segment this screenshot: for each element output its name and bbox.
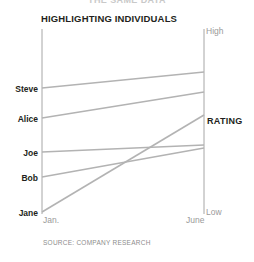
series-lines [42, 72, 204, 212]
scale-label-low: Low [206, 208, 222, 217]
slopegraph-chart: THE SAME DATA HIGHLIGHTING INDIVIDUALS S… [0, 0, 254, 262]
category-label-alice: Alice [18, 115, 38, 124]
series-line-alice [42, 92, 204, 118]
series-line-bob [42, 148, 204, 177]
plot-area [0, 0, 254, 262]
scale-label-high: High [206, 27, 223, 36]
category-label-joe: Joe [23, 149, 38, 158]
category-label-jane: Jane [19, 209, 38, 218]
category-label-steve: Steve [15, 85, 38, 94]
xtick-label-left: Jan. [43, 216, 59, 225]
series-line-jane [42, 115, 204, 212]
axis-title-rating: RATING [207, 116, 243, 126]
series-line-joe [42, 145, 204, 152]
category-label-bob: Bob [21, 174, 38, 183]
xtick-label-right: June [186, 216, 204, 225]
source-note: SOURCE: COMPANY RESEARCH [43, 240, 151, 247]
axes [42, 29, 204, 214]
series-line-steve [42, 72, 204, 88]
